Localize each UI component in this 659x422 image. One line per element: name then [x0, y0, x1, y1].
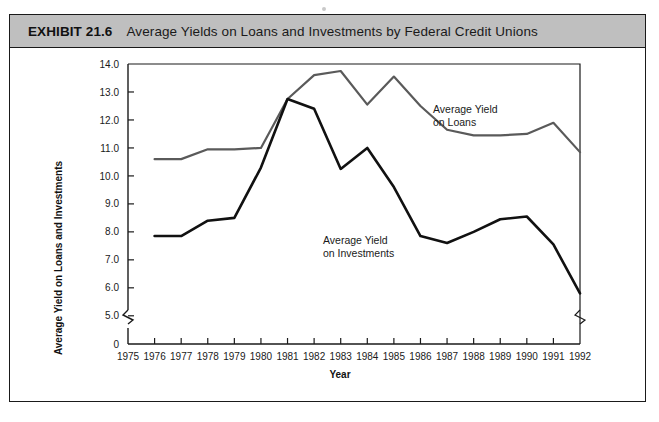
line-chart-plot: 5.06.07.08.09.010.011.012.013.014.00 197… [10, 48, 645, 400]
series-line-investments [155, 99, 580, 293]
investments-annotation-line2: on Investments [323, 247, 394, 259]
x-tick-label: 1986 [409, 351, 432, 362]
exhibit-header: EXHIBIT 21.6 Average Yields on Loans and… [10, 15, 645, 48]
investments-annotation-line1: Average Yield [323, 234, 388, 246]
y-tick-label: 14.0 [100, 59, 120, 70]
x-tick-label: 1975 [117, 351, 140, 362]
y-tick-label: 11.0 [100, 143, 119, 154]
axes-group [123, 64, 585, 344]
x-tick-label: 1979 [223, 351, 246, 362]
y-axis-title: Average Yield on Loans and Investments [53, 161, 64, 356]
x-tick-label: 1978 [197, 351, 220, 362]
x-tick-label: 1982 [303, 351, 326, 362]
y-tick-label-zero: 0 [113, 339, 119, 350]
series-line-loans [155, 71, 580, 159]
data-series-group [155, 71, 580, 293]
y-tick-label: 6.0 [105, 282, 119, 293]
x-tick-label: 1989 [489, 351, 512, 362]
y-tick-label: 5.0 [105, 310, 119, 321]
x-tick-label: 1976 [143, 351, 166, 362]
loans-annotation-line2: on Loans [433, 116, 476, 128]
x-tick-label: 1992 [569, 351, 592, 362]
x-tick-label: 1985 [383, 351, 406, 362]
x-tick-label: 1987 [436, 351, 459, 362]
y-tick-label: 8.0 [105, 226, 119, 237]
exhibit-root: EXHIBIT 21.6 Average Yields on Loans and… [0, 0, 659, 422]
page-speck-artifact [322, 7, 326, 11]
y-axis-ticks: 5.06.07.08.09.010.011.012.013.014.00 [100, 59, 134, 350]
x-tick-label: 1983 [330, 351, 353, 362]
x-axis-title: Year [329, 369, 350, 380]
loans-annotation-line1: Average Yield [433, 103, 498, 115]
y-tick-label: 13.0 [100, 87, 120, 98]
y-tick-label: 9.0 [105, 198, 119, 209]
chart-area: 5.06.07.08.09.010.011.012.013.014.00 197… [10, 48, 645, 401]
y-tick-label: 7.0 [105, 254, 119, 265]
y-tick-label: 12.0 [100, 115, 120, 126]
x-tick-label: 1990 [516, 351, 539, 362]
x-tick-label: 1981 [276, 351, 299, 362]
x-tick-label: 1984 [356, 351, 379, 362]
exhibit-number-label: EXHIBIT 21.6 [28, 24, 112, 39]
x-tick-label: 1988 [463, 351, 486, 362]
exhibit-frame: EXHIBIT 21.6 Average Yields on Loans and… [9, 14, 646, 402]
exhibit-title: Average Yields on Loans and Investments … [126, 24, 537, 39]
x-tick-label: 1991 [542, 351, 565, 362]
x-tick-label: 1980 [250, 351, 273, 362]
y-tick-label: 10.0 [100, 171, 120, 182]
x-tick-label: 1977 [170, 351, 193, 362]
x-axis-ticks: 1975197619771978197919801981198219831984… [117, 338, 592, 362]
